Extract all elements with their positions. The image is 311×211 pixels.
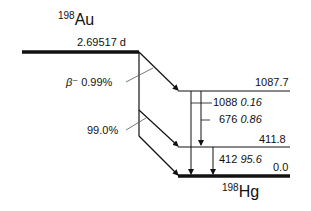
branch-intensity-1: 0.99% xyxy=(81,76,112,88)
parent-nuclide-label: 198Au xyxy=(58,12,94,28)
gamma-label-1088: 1088 0.16 xyxy=(213,97,262,108)
gamma-intensity-676: 0.86 xyxy=(240,113,261,125)
parent-mass-number: 198 xyxy=(58,10,75,21)
parent-symbol: Au xyxy=(75,11,95,28)
branch-intensity-2: 99.0% xyxy=(87,124,118,136)
gamma-intensity-412: 95.6 xyxy=(240,153,261,165)
daughter-symbol: Hg xyxy=(239,183,259,200)
branch-label-2: 99.0% xyxy=(87,125,118,136)
daughter-nuclide-label: 198Hg xyxy=(222,184,259,200)
gamma-energy-676: 676 xyxy=(219,113,237,125)
daughter-mass-number: 198 xyxy=(222,182,239,193)
decay-scheme-diagram xyxy=(0,0,311,211)
leader-line-beta-990 xyxy=(126,118,146,130)
gamma-label-412: 412 95.6 xyxy=(219,154,262,165)
gamma-intensity-1088: 0.16 xyxy=(241,96,262,108)
level-energy-1087: 1087.7 xyxy=(255,77,289,88)
branch-arrow-1087 xyxy=(139,52,178,90)
branch-label-1: β⁻ 0.99% xyxy=(66,77,112,88)
level-energy-411: 411.8 xyxy=(259,134,286,145)
branch-arrow-ground xyxy=(139,136,178,175)
parent-half-life: 2.69517 d xyxy=(77,37,126,48)
branch-arrow-411 xyxy=(139,110,178,146)
gamma-energy-412: 412 xyxy=(219,153,237,165)
level-energy-ground: 0.0 xyxy=(273,162,288,173)
gamma-label-676: 676 0.86 xyxy=(219,114,262,125)
gamma-energy-1088: 1088 xyxy=(213,96,237,108)
beta-minus-symbol: β⁻ xyxy=(66,76,78,88)
